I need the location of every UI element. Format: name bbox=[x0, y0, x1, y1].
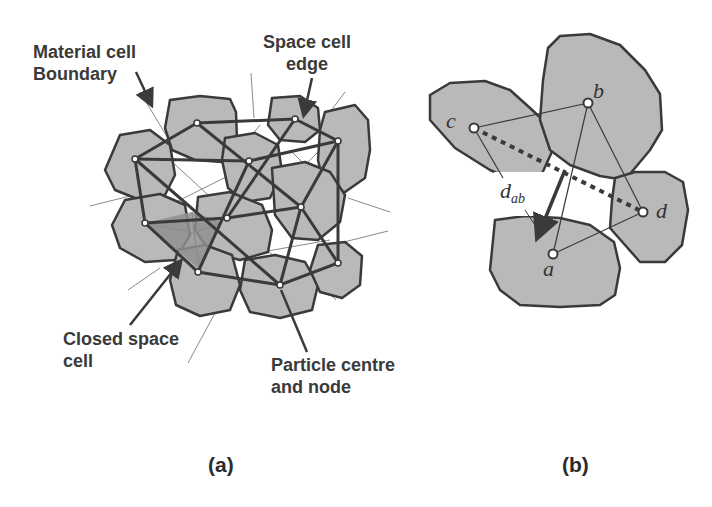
panel-a-diagram bbox=[90, 72, 390, 363]
label-material-cell-boundary: Material cell Boundary bbox=[33, 41, 136, 85]
node-label-a: a bbox=[543, 256, 554, 282]
particle-d bbox=[610, 172, 688, 262]
particle-a bbox=[490, 216, 620, 307]
distance-label-dab: dab bbox=[500, 178, 525, 204]
node-label-b: b bbox=[593, 78, 604, 104]
panel-b-diagram bbox=[430, 34, 688, 307]
panel-caption-b: (b) bbox=[562, 453, 589, 477]
panel-caption-a: (a) bbox=[208, 453, 234, 477]
panel-b-particles bbox=[430, 34, 688, 307]
particle-b bbox=[540, 34, 662, 180]
material-cells bbox=[105, 96, 370, 318]
node-c bbox=[470, 124, 479, 133]
node-d bbox=[639, 208, 648, 217]
node-label-c: c bbox=[446, 108, 456, 134]
label-closed-space-cell: Closed space cell bbox=[63, 328, 179, 372]
material-boundary-arrow bbox=[136, 72, 151, 104]
label-space-cell-edge: Space cell edge bbox=[263, 31, 351, 75]
node-label-d: d bbox=[656, 198, 667, 224]
node-b bbox=[584, 99, 593, 108]
label-particle-centre-node: Particle centre and node bbox=[271, 354, 395, 398]
